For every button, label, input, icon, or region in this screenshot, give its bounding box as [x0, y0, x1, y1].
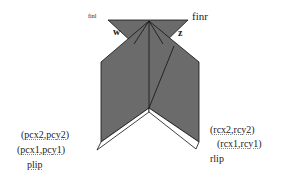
w-label: w	[113, 27, 120, 37]
left-point1-label: (pcx1,pcy1)	[17, 145, 65, 155]
left-lip-label: plip	[27, 160, 43, 170]
left-point2-label: (pcx2,pcy2)	[21, 130, 69, 140]
right-lip-label: rlip	[210, 154, 224, 164]
finl-label: finl	[88, 13, 96, 19]
right-point1-label: (rcx1,rcy1)	[217, 139, 262, 149]
finr-label: finr	[192, 11, 208, 22]
z-label: z	[178, 28, 182, 38]
body-shape	[101, 21, 199, 142]
right-point2-label: (rcx2,rcy2)	[210, 125, 255, 135]
